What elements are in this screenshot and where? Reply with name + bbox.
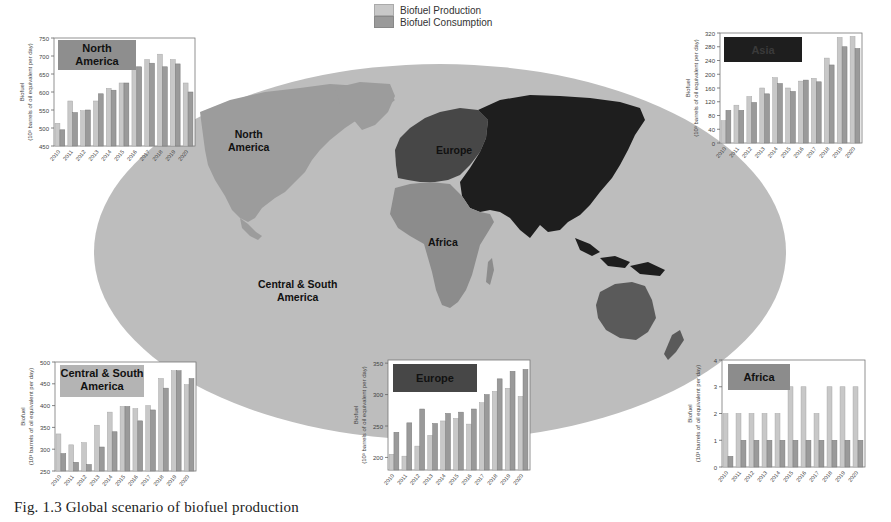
- legend-item-consumption: Biofuel Consumption: [374, 16, 492, 28]
- y-axis-label: (10³ barrels of oil equivalent per day): [27, 43, 33, 141]
- bar-consumption: [510, 371, 515, 470]
- x-tick-label: 2014: [434, 473, 446, 486]
- x-tick-label: 2013: [753, 146, 765, 159]
- x-tick-label: 2015: [114, 474, 126, 487]
- bar-production: [518, 396, 523, 470]
- bar-production: [69, 445, 74, 471]
- x-tick-label: 2010: [383, 473, 395, 486]
- legend-swatch-production: [374, 4, 394, 16]
- bar-production: [734, 105, 739, 143]
- bar-consumption: [726, 110, 731, 143]
- x-tick-label: 2013: [88, 474, 100, 487]
- map-label-line: America: [228, 141, 269, 154]
- chart-europe: Europe2002503003502010201120122013201420…: [335, 343, 540, 505]
- bar-production: [454, 418, 459, 470]
- x-tick-label: 2020: [844, 146, 856, 159]
- y-tick-label: 500: [40, 360, 51, 366]
- map-label-north-america: North America: [228, 128, 269, 154]
- bar-consumption: [87, 464, 92, 471]
- y-tick-label: 450: [39, 144, 50, 150]
- bar-consumption: [778, 84, 783, 143]
- bar-consumption: [523, 369, 528, 470]
- bar-production: [120, 406, 125, 471]
- x-tick-label: 2015: [782, 470, 794, 483]
- bar-consumption: [394, 432, 399, 470]
- bar-consumption: [99, 447, 104, 471]
- y-tick-label: 500: [39, 126, 50, 132]
- bar-production: [158, 54, 163, 146]
- x-tick-label: 2018: [486, 473, 498, 486]
- x-tick-label: 2018: [152, 474, 164, 487]
- map-label-africa: Africa: [428, 236, 458, 249]
- bar-production: [837, 37, 842, 143]
- legend-swatch-consumption: [374, 16, 394, 28]
- bar-consumption: [816, 82, 821, 143]
- y-tick-label: 4: [714, 358, 718, 364]
- bar-production: [786, 88, 791, 143]
- bar-consumption: [60, 130, 65, 146]
- y-axis-label: Biofuel: [687, 404, 693, 422]
- y-axis-label: (10³ barrels of oil equivalent per day): [695, 365, 701, 463]
- bar-consumption: [845, 440, 850, 467]
- y-tick-label: 120: [705, 99, 716, 105]
- y-tick-label: 300: [373, 392, 384, 398]
- bar-consumption: [803, 80, 808, 143]
- y-axis-label: Biofuel: [20, 407, 26, 425]
- bar-production: [119, 83, 124, 146]
- bar-consumption: [125, 406, 130, 471]
- y-tick-label: 350: [373, 361, 384, 367]
- x-tick-label: 2013: [421, 473, 433, 486]
- x-tick-label: 2018: [821, 470, 833, 483]
- x-tick-label: 2010: [50, 474, 62, 487]
- bar-consumption: [98, 94, 103, 146]
- x-tick-label: 2014: [769, 470, 781, 483]
- bar-consumption: [790, 91, 795, 143]
- y-tick-label: 0: [714, 465, 718, 471]
- bar-consumption: [754, 440, 759, 467]
- bar-production: [93, 101, 98, 146]
- chart-title: America: [80, 380, 124, 392]
- y-tick-label: 750: [39, 36, 50, 42]
- y-tick-label: 600: [39, 90, 50, 96]
- x-tick-label: 2019: [831, 146, 843, 159]
- chart-asia: Asia040801201602002402803202010201120122…: [672, 15, 877, 180]
- bar-consumption: [855, 48, 860, 143]
- bar-production: [145, 60, 150, 146]
- bar-consumption: [175, 64, 180, 146]
- bar-consumption: [752, 102, 757, 143]
- bar-production: [775, 414, 780, 468]
- bar-production: [723, 414, 728, 468]
- bar-consumption: [151, 410, 156, 471]
- y-axis-label: (10³ barrels of oil equivalent per day): [28, 368, 34, 466]
- x-tick-label: 2018: [818, 146, 830, 159]
- bar-consumption: [741, 440, 746, 467]
- map-label-europe: Europe: [436, 144, 472, 157]
- x-tick-label: 2015: [447, 473, 459, 486]
- x-tick-label: 2016: [792, 146, 804, 159]
- bar-production: [747, 97, 752, 143]
- legend-item-production: Biofuel Production: [374, 4, 492, 16]
- bar-consumption: [124, 83, 129, 146]
- bar-production: [132, 67, 137, 146]
- chart-africa: Africa0123420102011201220132014201520162…: [672, 345, 877, 505]
- legend: Biofuel Production Biofuel Consumption: [374, 4, 492, 28]
- bar-consumption: [780, 440, 785, 467]
- chart-title: Asia: [751, 44, 775, 56]
- bar-production: [811, 78, 816, 143]
- bar-production: [824, 58, 829, 143]
- y-tick-label: 0: [712, 141, 716, 147]
- x-tick-label: 2015: [779, 146, 791, 159]
- bar-consumption: [819, 440, 824, 467]
- y-axis-label: (10³ barrels of oil equivalent per day): [361, 366, 367, 464]
- y-tick-label: 160: [705, 86, 716, 92]
- bar-production: [505, 388, 510, 470]
- bar-production: [441, 421, 446, 470]
- x-tick-label: 2020: [177, 149, 189, 162]
- bar-production: [415, 446, 420, 470]
- bar-production: [840, 387, 845, 467]
- x-tick-label: 2012: [409, 473, 421, 486]
- y-tick-label: 550: [39, 108, 50, 114]
- bar-production: [801, 387, 806, 467]
- bar-production: [82, 443, 87, 471]
- chart-title: North: [82, 42, 112, 54]
